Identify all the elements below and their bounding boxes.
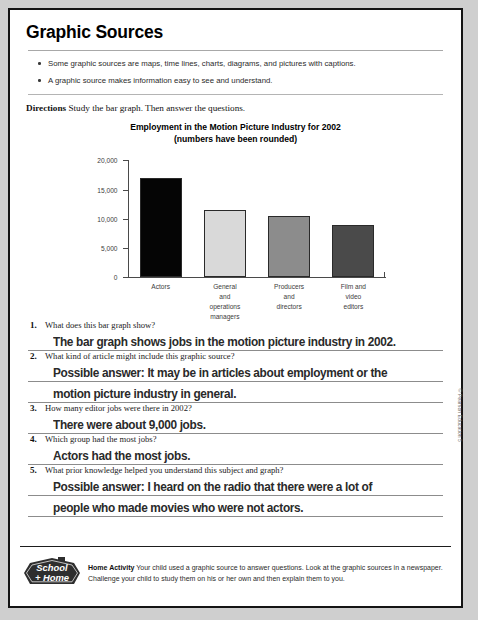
y-axis-tick [123,219,128,220]
directions-text: Study the bar graph. Then answer the que… [68,103,245,113]
footer: School + Home Home Activity Your child u… [20,546,451,596]
x-axis-label-line: operations [189,302,261,312]
answer-line[interactable]: Actors had the most jobs. [28,445,443,465]
worksheet-frame: Graphic Sources Some graphic sources are… [8,8,463,608]
answer-line[interactable]: people who made movies who were not acto… [28,497,443,517]
directions-label: Directions [26,103,66,113]
x-axis-label-line: and [253,292,325,302]
x-axis-label: Generalandoperationsmanagers [189,282,261,322]
footer-heading: Home Activity [88,564,134,571]
answer-line[interactable]: There were about 9,000 jobs. [28,414,443,434]
copyright-notice: © Pearson Education 5 [457,389,463,442]
chart-title: Employment in the Motion Picture Industr… [24,122,447,145]
chart-bar [140,178,182,277]
answer-text: There were about 9,000 jobs. [53,418,206,432]
question-row: 3.How many editor jobs were there in 200… [28,403,447,413]
answer-text: people who made movies who were not acto… [53,501,303,515]
question-number: 5. [28,465,45,475]
answer-text: motion picture industry in general. [53,387,236,401]
x-axis-label-line: editors [317,302,389,312]
y-axis-tick [123,248,128,249]
bullets-divider [28,94,443,95]
answer-line[interactable]: The bar graph shows jobs in the motion p… [28,331,443,351]
x-axis-label-line: managers [189,312,261,322]
page-title: Graphic Sources [26,22,447,43]
y-axis-tick-label: 0 [72,274,118,281]
question-prompt: How many editor jobs were there in 2002? [45,403,192,413]
x-axis-label: Producersanddirectors [253,282,325,312]
x-axis-label-line: General [189,282,261,292]
answer-line[interactable]: motion picture industry in general. [28,383,443,403]
x-axis-line [128,277,386,278]
y-axis-tick-label: 5,000 [72,245,118,252]
y-axis-tick-label: 10,000 [72,215,118,222]
answer-line[interactable]: Possible answer: I heard on the radio th… [28,476,443,496]
title-divider [28,50,443,51]
x-axis-label-line: Film and [317,282,389,292]
chart-title-line1: Employment in the Motion Picture Industr… [68,122,403,134]
chart-plot-area: 05,00010,00015,00020,000 ActorsGeneralan… [76,154,396,314]
question-prompt: What prior knowledge helped you understa… [45,465,283,475]
bullet-item: Some graphic sources are maps, time line… [24,58,447,70]
chart-bar [204,210,246,277]
question-row: 5.What prior knowledge helped you unders… [28,465,447,475]
answer-text: Possible answer: I heard on the radio th… [53,480,372,494]
x-axis-label-line: Actors [125,282,197,292]
question-row: 4.Which group had the most jobs? [28,434,447,444]
answer-text: Possible answer: It may be in articles a… [53,366,387,380]
y-axis-tick [123,277,128,278]
question-number: 4. [28,434,45,444]
question-prompt: Which group had the most jobs? [45,434,156,444]
bullet-item: A graphic source makes information easy … [24,75,447,87]
bar-chart: Employment in the Motion Picture Industr… [24,122,447,318]
y-axis-tick [123,190,128,191]
page-background: Graphic Sources Some graphic sources are… [0,0,478,620]
answer-text: The bar graph shows jobs in the motion p… [53,335,396,349]
x-axis-label-line: Producers [253,282,325,292]
school-home-logo: School + Home [22,556,82,590]
question-number: 1. [28,320,45,330]
question-number: 2. [28,351,45,361]
worksheet-sheet: Graphic Sources Some graphic sources are… [10,10,461,606]
questions-list: 1.What does this bar graph show?The bar … [24,320,447,517]
x-axis-label: Film andvideoeditors [317,282,389,312]
question-number: 3. [28,403,45,413]
chart-bars [129,160,386,277]
y-axis-tick-label: 20,000 [72,157,118,164]
y-axis-tick [123,160,128,161]
question-prompt: What does this bar graph show? [45,320,155,330]
school-home-logo-icon: School + Home [22,556,82,590]
answer-line[interactable]: Possible answer: It may be in articles a… [28,362,443,382]
x-axis-label: Actors [125,282,197,292]
question-prompt: What kind of article might include this … [45,351,234,361]
footer-body: Your child used a graphic source to answ… [88,564,443,582]
logo-text-home: + Home [35,572,69,583]
chart-bar [332,225,374,278]
question-row: 2.What kind of article might include thi… [28,351,447,361]
y-axis-tick-label: 15,000 [72,186,118,193]
x-axis-label-line: video [317,292,389,302]
directions: Directions Study the bar graph. Then ans… [26,103,447,113]
x-axis-label-line: directors [253,302,325,312]
chart-bar [268,216,310,277]
bullet-list: Some graphic sources are maps, time line… [24,58,447,87]
footer-text: Home Activity Your child used a graphic … [88,562,451,585]
x-axis-label-line: and [189,292,261,302]
chart-title-line2: (numbers have been rounded) [68,134,403,146]
answer-text: Actors had the most jobs. [53,449,190,463]
